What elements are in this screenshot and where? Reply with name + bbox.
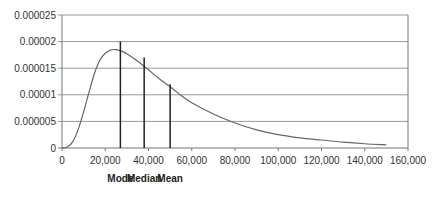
x-tick-label: 100,000	[260, 155, 297, 166]
x-tick-label: 0	[59, 155, 65, 166]
density-chart: 00.0000050.000010.0000150.000020.000025 …	[0, 0, 435, 200]
x-tick-label: 140,000	[347, 155, 384, 166]
y-tick-label: 0.000025	[14, 10, 56, 21]
x-tick-label: 60,000	[176, 155, 207, 166]
y-tick-label: 0	[50, 143, 56, 154]
marker-label-median: Median	[127, 173, 161, 184]
y-tick-label: 0.00002	[20, 36, 57, 47]
gridlines	[58, 15, 408, 151]
x-tick-label: 160,000	[390, 155, 427, 166]
density-curve	[62, 49, 386, 148]
x-tick-label: 80,000	[220, 155, 251, 166]
y-tick-label: 0.000005	[14, 116, 56, 127]
x-tick-label: 40,000	[133, 155, 164, 166]
y-axis-tick-labels: 00.0000050.000010.0000150.000020.000025	[14, 10, 56, 154]
x-tick-label: 20,000	[90, 155, 121, 166]
y-tick-label: 0.000015	[14, 63, 56, 74]
x-tick-label: 120,000	[303, 155, 340, 166]
statistic-marker-labels: ModeMedianMean	[107, 173, 183, 184]
marker-label-mean: Mean	[157, 173, 183, 184]
x-axis-tick-labels: 020,00040,00060,00080,000100,000120,0001…	[59, 155, 426, 166]
y-tick-label: 0.00001	[20, 89, 57, 100]
